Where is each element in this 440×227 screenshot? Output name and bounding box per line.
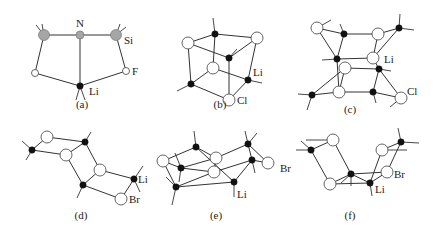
atom-li	[367, 180, 373, 186]
atom-open	[333, 86, 345, 98]
panel-b: LiCl(b)	[177, 18, 263, 111]
atom-li	[348, 171, 354, 177]
atom-li	[212, 31, 218, 37]
atom-label: Cl	[407, 85, 417, 97]
atom-label: Si	[124, 34, 133, 46]
atom-open	[262, 157, 274, 169]
panel-caption: (c)	[344, 103, 357, 116]
atom-label: Li	[138, 173, 148, 185]
bond	[188, 43, 229, 58]
bond	[373, 69, 379, 92]
atom-open	[210, 152, 222, 164]
atom-li	[376, 66, 382, 72]
atom-open	[311, 22, 323, 34]
atom-li	[398, 139, 404, 145]
atom-label: Li	[237, 188, 247, 200]
atom-label: Br	[394, 168, 405, 180]
atom-gray	[76, 31, 84, 39]
atom-open	[372, 28, 384, 40]
atom-li	[245, 77, 251, 83]
panel-caption: (d)	[75, 209, 88, 222]
atom-label: Br	[280, 162, 291, 174]
atom-open	[115, 193, 127, 205]
panel-caption: (a)	[76, 98, 89, 111]
atom-open	[339, 62, 351, 74]
atom-open	[208, 166, 220, 178]
panel-e: BrLi(e)	[157, 131, 291, 222]
atom-li	[396, 25, 402, 31]
atom-open	[123, 68, 130, 75]
atom-li	[29, 147, 35, 153]
panel-f: BrLi(f)	[296, 128, 419, 222]
atom-open	[376, 144, 388, 156]
atom-li	[82, 139, 88, 145]
atom-open	[207, 62, 219, 74]
atom-li	[370, 89, 376, 95]
atom-li	[80, 182, 86, 188]
atom-li	[231, 179, 237, 185]
atom-li	[131, 176, 137, 182]
panel-c: LiCl(c)	[298, 14, 417, 116]
atom-li	[188, 81, 194, 87]
atom-open	[324, 178, 336, 190]
atom-open	[395, 92, 407, 104]
figure-canvas: NSiFLi(a)LiCl(b)LiCl(c)LiBr(d)BrLi(e)BrL…	[0, 0, 440, 227]
atom-open	[381, 166, 393, 178]
atom-open	[182, 37, 194, 49]
atom-label: Li	[253, 66, 263, 78]
panel-caption: (b)	[214, 98, 227, 111]
atom-open	[32, 70, 39, 77]
atom-label: Cl	[237, 94, 247, 106]
atom-li	[77, 83, 83, 89]
atom-label: Li	[89, 85, 99, 97]
atom-li	[193, 144, 199, 150]
atom-li	[308, 147, 314, 153]
atom-open	[327, 134, 339, 146]
atom-li	[249, 157, 255, 163]
molecular-structures-figure: NSiFLi(a)LiCl(b)LiCl(c)LiBr(d)BrLi(e)BrL…	[0, 0, 440, 227]
atom-li	[245, 141, 251, 147]
panel-caption: (e)	[210, 209, 223, 222]
bond	[80, 71, 126, 86]
panel-a: NSiFLi(a)	[32, 17, 139, 111]
atom-label: N	[76, 17, 84, 29]
atom-label: Li	[375, 183, 385, 195]
atom-li	[173, 184, 179, 190]
atom-open	[157, 155, 169, 167]
atom-open	[94, 164, 106, 176]
atom-li	[226, 55, 232, 61]
panel-caption: (f)	[345, 209, 356, 222]
atom-li	[334, 56, 340, 62]
atom-open	[251, 32, 263, 44]
atom-open	[60, 149, 72, 161]
atom-gray	[39, 30, 50, 41]
bond	[35, 73, 80, 86]
atom-li	[309, 92, 315, 98]
atom-label: Br	[129, 193, 140, 205]
bond	[176, 182, 234, 187]
panel-d: LiBr(d)	[22, 131, 148, 222]
atom-label: Li	[384, 53, 394, 65]
atom-li	[341, 31, 347, 37]
atom-open	[367, 52, 379, 64]
bond	[337, 34, 344, 59]
bond	[35, 35, 44, 73]
atom-label: F	[132, 65, 138, 77]
atom-open	[41, 131, 53, 143]
atom-li	[178, 165, 184, 171]
atom-gray	[111, 30, 122, 41]
